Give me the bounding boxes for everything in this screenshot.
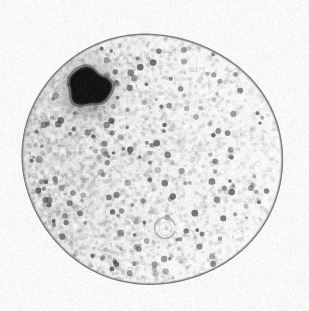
grayscale-disc-scan-canvas xyxy=(0,0,309,311)
scan-image-viewport: Disc scan Grayscale disc-shaped autoradi… xyxy=(0,0,309,311)
